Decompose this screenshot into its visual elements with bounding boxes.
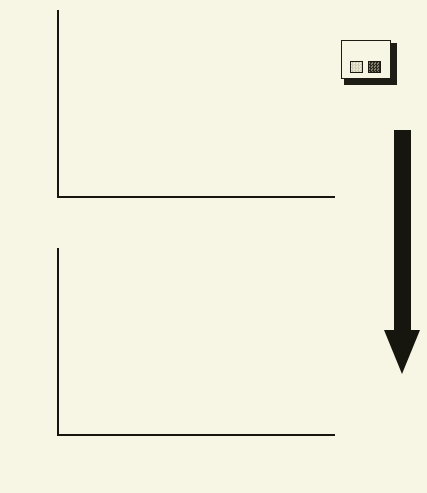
x-axis-line-bottom [57, 434, 335, 436]
legend-box [341, 40, 391, 79]
chart-panel-top [24, 10, 344, 235]
plot-area-bottom [57, 248, 329, 434]
plot-area-top [57, 10, 329, 196]
legend [341, 40, 397, 85]
chart-panel-bottom [24, 248, 344, 488]
legend-swatch-1981 [350, 61, 363, 73]
figure-canvas [0, 0, 427, 493]
arrow-shaft [394, 130, 411, 332]
legend-swatch-1990 [368, 61, 381, 73]
arrow-head-icon [384, 330, 420, 374]
x-axis-line-top [57, 196, 335, 198]
predicted-shift-arrow [384, 130, 420, 375]
